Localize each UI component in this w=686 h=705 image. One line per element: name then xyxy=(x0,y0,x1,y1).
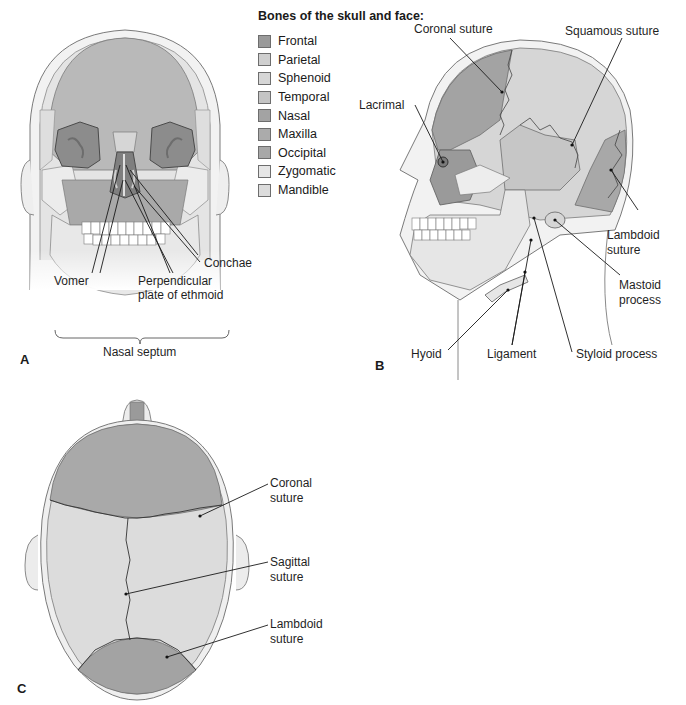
label-squamous-suture: Squamous suture xyxy=(565,24,659,38)
label-vomer: Vomer xyxy=(54,274,89,288)
legend-item-frontal: Frontal xyxy=(258,32,336,51)
legend-label: Mandible xyxy=(278,183,329,197)
panel-letter-c: C xyxy=(17,681,26,696)
label-hyoid: Hyoid xyxy=(411,347,442,361)
legend-item-temporal: Temporal xyxy=(258,88,336,107)
legend-item-mandible: Mandible xyxy=(258,181,336,200)
panel-letter-b: B xyxy=(375,358,384,373)
label-perpendicular-line2: plate of ethmoid xyxy=(138,288,223,302)
legend-label: Temporal xyxy=(278,90,329,104)
label-lambdoid-line2: suture xyxy=(270,632,303,646)
swatch-frontal xyxy=(258,35,271,48)
swatch-mandible xyxy=(258,184,271,197)
lateral-skull-illustration xyxy=(400,38,638,380)
swatch-zygomatic xyxy=(258,165,271,178)
label-coronal-line2: suture xyxy=(270,491,303,505)
swatch-occipital xyxy=(258,146,271,159)
label-lambdoid-line1: Lambdoid xyxy=(607,228,660,242)
swatch-maxilla xyxy=(258,128,271,141)
swatch-sphenoid xyxy=(258,72,271,85)
swatch-nasal xyxy=(258,109,271,122)
label-lacrimal: Lacrimal xyxy=(359,98,404,112)
legend-label: Maxilla xyxy=(278,127,317,141)
label-mastoid-line1: Mastoid xyxy=(619,278,661,292)
label-ligament: Ligament xyxy=(487,347,536,361)
label-styloid-process: Styloid process xyxy=(576,347,657,361)
legend-title: Bones of the skull and face: xyxy=(258,9,424,23)
swatch-temporal xyxy=(258,91,271,104)
label-sagittal-line2: suture xyxy=(270,570,303,584)
label-sagittal-line1: Sagittal xyxy=(270,555,310,569)
label-conchae: Conchae xyxy=(204,256,252,270)
bone-legend: Frontal Parietal Sphenoid Temporal Nasal… xyxy=(258,32,336,199)
legend-item-sphenoid: Sphenoid xyxy=(258,69,336,88)
panel-letter-a: A xyxy=(20,352,29,367)
legend-label: Zygomatic xyxy=(278,164,336,178)
legend-item-zygomatic: Zygomatic xyxy=(258,162,336,181)
legend-label: Nasal xyxy=(278,109,310,123)
legend-item-occipital: Occipital xyxy=(258,144,336,163)
legend-label: Parietal xyxy=(278,53,320,67)
superior-skull-illustration xyxy=(25,400,268,700)
legend-item-nasal: Nasal xyxy=(258,106,336,125)
legend-item-maxilla: Maxilla xyxy=(258,125,336,144)
legend-label: Sphenoid xyxy=(278,71,331,85)
legend-item-parietal: Parietal xyxy=(258,51,336,70)
label-mastoid-line2: process xyxy=(619,293,661,307)
label-nasal-septum: Nasal septum xyxy=(103,345,176,359)
label-coronal-suture: Coronal suture xyxy=(414,22,493,36)
legend-label: Frontal xyxy=(278,34,317,48)
label-lambdoid-line1: Lambdoid xyxy=(270,617,323,631)
label-coronal-line1: Coronal xyxy=(270,476,312,490)
legend-label: Occipital xyxy=(278,146,326,160)
label-lambdoid-line2: suture xyxy=(607,243,640,257)
swatch-parietal xyxy=(258,53,271,66)
label-perpendicular-line1: Perpendicular xyxy=(138,274,212,288)
